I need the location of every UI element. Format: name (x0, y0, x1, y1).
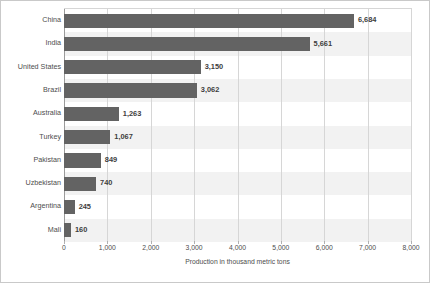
category-label: Pakistan (33, 148, 61, 171)
bar-value-label: 849 (105, 153, 117, 167)
tick-label: 1,000 (99, 244, 116, 251)
category-axis: ChinaIndiaUnited StatesBrazilAustraliaTu… (9, 8, 64, 241)
bar[interactable] (64, 60, 201, 74)
tick-label: 2,000 (142, 244, 159, 251)
category-label: Brazil (43, 78, 61, 101)
category-label: Argentina (30, 194, 61, 217)
bar-value-label: 1,263 (123, 107, 142, 121)
gridline (411, 9, 412, 242)
bar-row: 740 (64, 172, 411, 195)
bar-value-label: 3,150 (205, 60, 224, 74)
bar[interactable] (64, 130, 110, 144)
category-label: Australia (33, 101, 61, 124)
bar[interactable] (64, 153, 101, 167)
bar-value-label: 740 (100, 176, 112, 190)
tick-label: 7,000 (359, 244, 376, 251)
bar-row: 160 (64, 219, 411, 242)
value-axis: 01,0002,0003,0004,0005,0006,0007,0008,00… (64, 241, 411, 255)
bar[interactable] (64, 14, 354, 28)
category-label: United States (18, 55, 61, 78)
bar-value-label: 6,684 (358, 13, 377, 27)
bar[interactable] (64, 177, 96, 191)
category-label: Mali (48, 218, 61, 241)
plot-wrapper: ChinaIndiaUnited StatesBrazilAustraliaTu… (9, 8, 423, 256)
tick-label: 8,000 (402, 244, 419, 251)
bar-value-label: 1,067 (114, 130, 133, 144)
x-axis-title: Production in thousand metric tons (64, 258, 411, 265)
bar-row: 849 (64, 149, 411, 172)
bar-row: 245 (64, 195, 411, 218)
category-label: India (45, 31, 61, 54)
tick-label: 0 (62, 244, 66, 251)
bar-value-label: 5,661 (314, 37, 333, 51)
tick-label: 3,000 (186, 244, 203, 251)
bar-row: 1,263 (64, 102, 411, 125)
category-label: Turkey (39, 125, 61, 148)
bar[interactable] (64, 83, 197, 97)
tick-label: 4,000 (229, 244, 246, 251)
tick-label: 6,000 (316, 244, 333, 251)
bar-row: 5,661 (64, 32, 411, 55)
category-label: Uzbekistan (25, 171, 61, 194)
bar[interactable] (64, 107, 119, 121)
bar[interactable] (64, 200, 75, 214)
bar-value-label: 245 (79, 200, 91, 214)
bar[interactable] (64, 223, 71, 237)
bar[interactable] (64, 37, 310, 51)
bar-row: 3,150 (64, 56, 411, 79)
bar-row: 1,067 (64, 126, 411, 149)
plot-area: 6,6845,6613,1503,0621,2631,0678497402451… (64, 8, 412, 242)
tick-label: 5,000 (272, 244, 289, 251)
category-label: China (42, 8, 61, 31)
bar-value-label: 3,062 (201, 83, 220, 97)
bar-row: 3,062 (64, 79, 411, 102)
bar-value-label: 160 (75, 223, 87, 237)
bar-chart-figure: ChinaIndiaUnited StatesBrazilAustraliaTu… (0, 0, 430, 283)
bar-row: 6,684 (64, 9, 411, 32)
